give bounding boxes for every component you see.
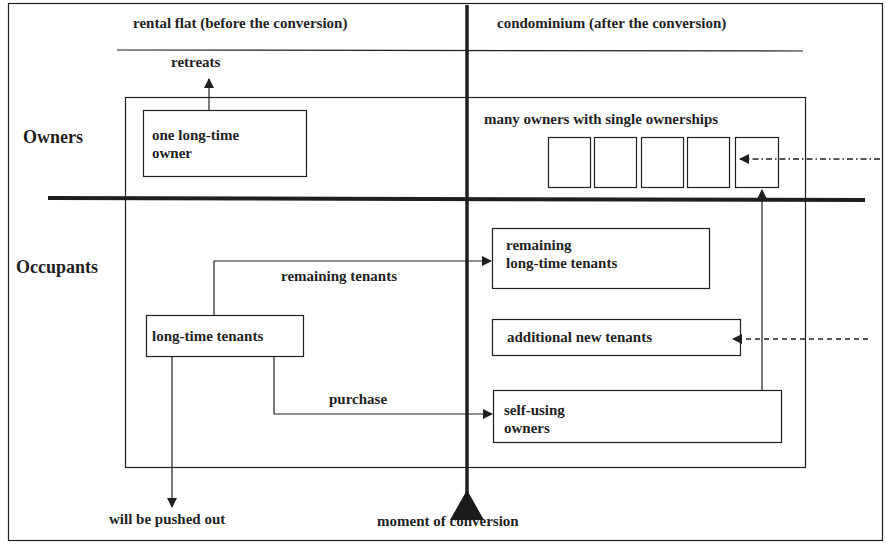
remaining-lt-label-line2: long-time tenants xyxy=(506,256,617,272)
row-label-occupants: Occupants xyxy=(16,258,98,277)
outer-frame xyxy=(9,4,883,541)
ownership-unit xyxy=(549,138,591,188)
owners-occupants-divider xyxy=(48,198,865,200)
remaining-tenants-label: remaining tenants xyxy=(281,269,397,285)
ownership-unit xyxy=(688,138,730,188)
row-label-owners: Owners xyxy=(23,128,83,147)
long-time-tenants-label: long-time tenants xyxy=(152,329,263,345)
self-using-label-line2: owners xyxy=(504,421,550,437)
ownership-unit xyxy=(736,138,779,188)
moment-of-conversion-label: moment of conversion xyxy=(377,514,519,530)
pushed-out-label: will be pushed out xyxy=(109,512,225,528)
one-owner-label-line2: owner xyxy=(152,146,192,162)
retreats-label: retreats xyxy=(171,55,220,71)
purchase-label: purchase xyxy=(329,392,387,408)
after-conversion-title: condominium (after the conversion) xyxy=(497,16,726,32)
diagram-canvas xyxy=(0,0,886,548)
additional-new-tenants-label: additional new tenants xyxy=(507,330,652,346)
self-using-label-line1: self-using xyxy=(504,403,565,419)
remaining-lt-label-line1: remaining xyxy=(506,238,572,254)
before-conversion-title: rental flat (before the conversion) xyxy=(133,16,347,32)
one-owner-label-line1: one long-time xyxy=(152,128,239,144)
ownership-unit xyxy=(595,138,637,188)
many-owners-label: many owners with single ownerships xyxy=(484,112,718,128)
ownership-unit xyxy=(642,138,684,188)
header-divider xyxy=(117,50,803,51)
